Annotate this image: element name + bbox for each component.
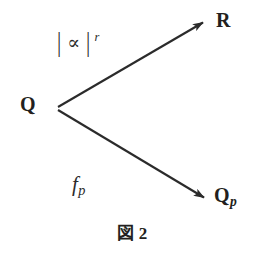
abs-bar-left-icon: | (57, 30, 64, 56)
edge-label-upper-group: |∝| (57, 31, 93, 53)
figure-caption: 図2 (0, 219, 265, 244)
abs-bar-right-icon: | (86, 30, 93, 56)
edge-label-lower: fp (72, 174, 85, 195)
node-label-qp-base: Q (214, 184, 230, 206)
node-label-qp-subscript: p (230, 194, 237, 209)
caption-number: 2 (139, 224, 149, 243)
node-label-qp: Qp (214, 185, 237, 205)
caption-kanji: 図 (117, 223, 135, 243)
node-label-q: Q (20, 94, 36, 114)
edge-label-upper-superscript: r (95, 30, 100, 44)
edge-label-lower-subscript: p (78, 182, 85, 198)
figure-container: Q R Qp |∝|r fp 図2 (0, 0, 265, 257)
edge-label-lower-base: f (72, 172, 78, 196)
proportional-to-icon: ∝ (64, 33, 86, 52)
node-label-r: R (216, 10, 231, 30)
edge-label-upper: |∝|r (57, 32, 98, 53)
